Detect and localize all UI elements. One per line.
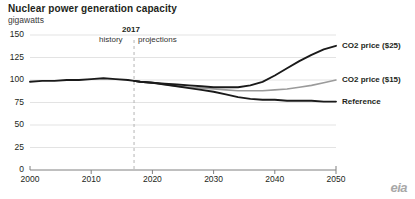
- line-reference: [30, 78, 336, 101]
- y-axis-tick-label: 50: [0, 120, 24, 129]
- x-axis-tick-label: 2010: [71, 175, 111, 184]
- x-axis-tick-label: 2040: [255, 175, 295, 184]
- series-label-reference: Reference: [342, 97, 381, 106]
- y-axis-tick-label: 75: [0, 98, 24, 107]
- y-axis-tick-label: 150: [0, 30, 24, 39]
- y-axis-tick-label: 100: [0, 75, 24, 84]
- x-axis-tick-label: 2020: [132, 175, 172, 184]
- line-co2-25: [134, 46, 336, 87]
- x-axis-tick-label: 2050: [316, 175, 356, 184]
- chart-root: Nuclear power generation capacity gigawa…: [0, 0, 415, 199]
- y-axis-tick-label: 0: [0, 165, 24, 174]
- divider-projections-label: projections: [138, 35, 177, 44]
- x-axis-tick-label: 2030: [194, 175, 234, 184]
- y-axis-tick-label: 125: [0, 53, 24, 62]
- series-label-co2-15: CO2 price ($15): [342, 75, 401, 84]
- y-axis-tick-label: 25: [0, 143, 24, 152]
- divider-history-label: history: [99, 35, 123, 44]
- series-label-co2-25: CO2 price ($25): [342, 41, 401, 50]
- divider-year-label: 2017: [122, 25, 140, 34]
- x-axis-tick-label: 2000: [10, 175, 50, 184]
- eia-logo: eia: [390, 180, 407, 195]
